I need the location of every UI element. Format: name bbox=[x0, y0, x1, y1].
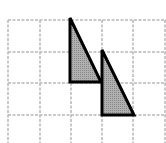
triangles bbox=[70, 18, 134, 115]
triangle-2 bbox=[102, 50, 134, 115]
grid-diagram bbox=[0, 0, 166, 143]
triangle-1 bbox=[70, 18, 101, 82]
